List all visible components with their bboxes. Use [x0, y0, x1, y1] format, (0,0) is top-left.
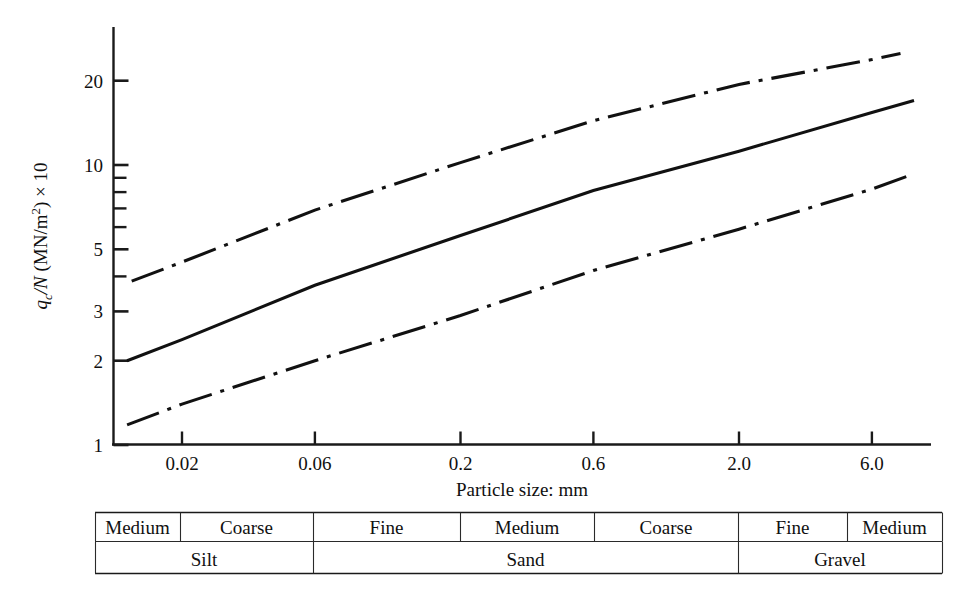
- table-labels-soiltype: SiltSandGravel: [191, 549, 866, 570]
- y-axis-title: qc/N (MN/m2) × 10: [28, 162, 55, 309]
- table-cell-subdivision-6: Medium: [862, 517, 927, 538]
- classification-table: MediumCoarseFineMediumCoarseFineMedium S…: [95, 513, 943, 574]
- table-cell-soiltype-1: Sand: [507, 549, 546, 570]
- table-cell-subdivision-3: Medium: [495, 517, 560, 538]
- table-cell-subdivision-0: Medium: [105, 517, 170, 538]
- chart-figure: 12351020 0.020.060.20.62.06.0 Particle s…: [0, 0, 965, 606]
- x-tick-label-0.2: 0.2: [449, 453, 473, 474]
- axis-lines: [112, 27, 931, 446]
- y-tick-label-2: 2: [94, 351, 104, 372]
- y-title-tail: ) × 10: [30, 162, 52, 208]
- x-tick-label-6.0: 6.0: [860, 453, 884, 474]
- figure-root: 12351020 0.020.060.20.62.06.0 Particle s…: [0, 0, 965, 606]
- data-curves: [127, 54, 914, 425]
- table-cell-soiltype-0: Silt: [191, 549, 218, 570]
- table-cell-subdivision-1: Coarse: [220, 517, 273, 538]
- y-title-slash-n: /N: [30, 275, 51, 295]
- curve-lower-bound: [127, 174, 914, 425]
- table-cell-subdivision-2: Fine: [370, 517, 404, 538]
- x-tick-label-0.06: 0.06: [298, 453, 331, 474]
- x-tick-label-0.6: 0.6: [582, 453, 606, 474]
- curve-mean: [127, 101, 914, 361]
- y-axis-tick-labels: 12351020: [84, 71, 103, 456]
- table-cell-subdivision-4: Coarse: [640, 517, 693, 538]
- x-tick-label-0.02: 0.02: [165, 453, 198, 474]
- x-axis-title: Particle size: mm: [456, 479, 588, 500]
- y-tick-label-10: 10: [84, 155, 103, 176]
- y-tick-label-20: 20: [84, 71, 103, 92]
- y-tick-label-1: 1: [94, 435, 104, 456]
- y-tick-label-3: 3: [94, 301, 104, 322]
- x-axis-tick-labels: 0.020.060.20.62.06.0: [165, 453, 883, 474]
- curve-upper-bound: [132, 54, 901, 282]
- x-tick-label-2.0: 2.0: [727, 453, 751, 474]
- y-axis-ticks: [114, 81, 129, 445]
- table-labels-subdivision: MediumCoarseFineMediumCoarseFineMedium: [105, 517, 927, 538]
- y-title-units: (MN/m: [30, 214, 52, 276]
- y-title-q: q: [30, 300, 51, 310]
- svg-text:qc/N (MN/m2) × 10: qc/N (MN/m2) × 10: [28, 162, 55, 309]
- y-tick-label-5: 5: [94, 239, 104, 260]
- table-cell-soiltype-2: Gravel: [814, 549, 866, 570]
- x-axis-ticks: [182, 432, 872, 445]
- table-cell-subdivision-5: Fine: [776, 517, 810, 538]
